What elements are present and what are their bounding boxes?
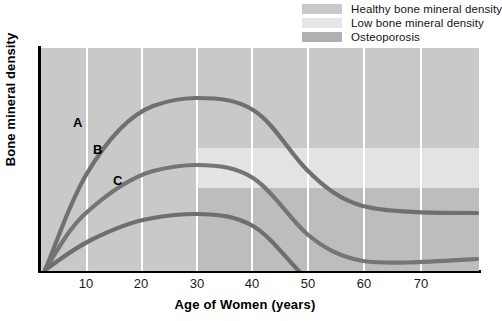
xtick-label-40: 40 [245, 277, 259, 290]
curves-layer [41, 48, 479, 271]
low-swatch [302, 18, 342, 28]
xtick-label-20: 20 [134, 277, 148, 290]
y-axis-title: Bone mineral density [3, 0, 18, 200]
plot-area: A B C [41, 48, 479, 271]
chart-legend: Healthy bone mineral density Low bone mi… [302, 2, 490, 44]
osteoporosis-swatch [302, 32, 342, 42]
legend-item-healthy: Healthy bone mineral density [302, 2, 490, 15]
curve-label-a: A [73, 116, 82, 129]
legend-item-low: Low bone mineral density [302, 16, 490, 29]
xtick-label-70: 70 [414, 277, 428, 290]
xtick-label-10: 10 [79, 277, 93, 290]
plot-background [41, 48, 479, 271]
xtick-label-50: 50 [301, 277, 315, 290]
curve-label-c: C [113, 174, 122, 187]
legend-item-osteoporosis: Osteoporosis [302, 30, 490, 43]
curve-b [45, 165, 477, 270]
xtick-label-60: 60 [357, 277, 371, 290]
legend-label-osteoporosis: Osteoporosis [351, 31, 420, 43]
xtick-label-30: 30 [190, 277, 204, 290]
legend-label-healthy: Healthy bone mineral density [351, 3, 502, 15]
healthy-swatch [302, 4, 342, 14]
legend-label-low: Low bone mineral density [351, 17, 484, 29]
x-axis-title: Age of Women (years) [0, 297, 490, 312]
curve-label-b: B [93, 143, 102, 156]
